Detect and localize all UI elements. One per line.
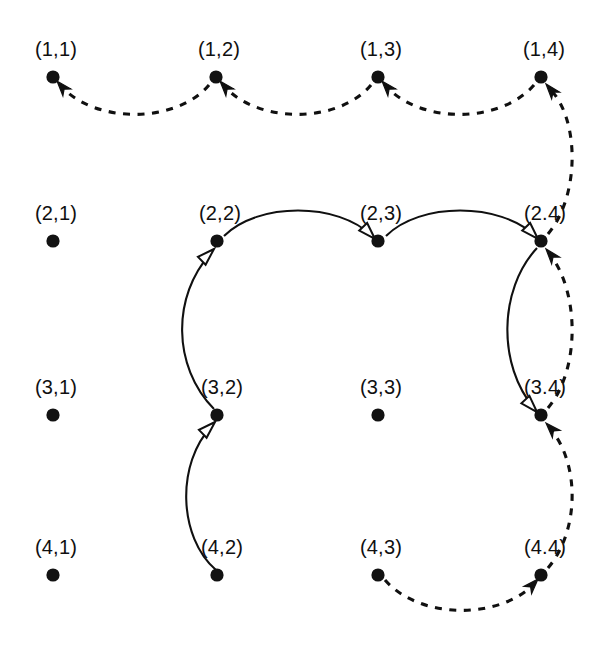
node-n41[interactable] — [46, 568, 59, 581]
node-label-n42: (4,2) — [201, 536, 243, 558]
node-n44[interactable] — [534, 568, 547, 581]
node-n43[interactable] — [371, 568, 384, 581]
node-n23[interactable] — [371, 234, 384, 247]
node-label-n14: (1,4) — [523, 38, 565, 60]
node-n13[interactable] — [371, 70, 384, 83]
nodes-layer — [46, 70, 547, 581]
node-label-n33: (3,3) — [360, 376, 402, 398]
grid-path-diagram: (1,1)(1,2)(1,3)(1,4)(2,1)(2,2)(2,3)(2.4)… — [0, 0, 612, 664]
labels-layer: (1,1)(1,2)(1,3)(1,4)(2,1)(2,2)(2,3)(2.4)… — [35, 38, 566, 558]
node-n33[interactable] — [371, 408, 384, 421]
node-label-n44: (4.4) — [524, 536, 566, 558]
node-n21[interactable] — [46, 234, 59, 247]
node-label-n41: (4,1) — [35, 536, 77, 558]
edge-13-to-12 — [224, 85, 371, 114]
node-n22[interactable] — [210, 234, 223, 247]
arrowhead-e-44-34 — [542, 419, 560, 437]
node-label-n31: (3,1) — [35, 376, 77, 398]
edge-12-to-11 — [61, 85, 209, 114]
edges-layer — [61, 85, 572, 610]
node-n11[interactable] — [46, 70, 59, 83]
node-label-n11: (1,1) — [35, 38, 77, 60]
node-label-n23: (2,3) — [360, 202, 402, 224]
node-label-n34: (3.4) — [524, 376, 566, 398]
node-n24[interactable] — [534, 234, 547, 247]
node-label-n43: (4,3) — [360, 536, 402, 558]
node-label-n22: (2,2) — [199, 202, 241, 224]
node-label-n32: (3,2) — [201, 376, 243, 398]
edge-43-to-44 — [385, 580, 535, 610]
node-label-n13: (1,3) — [360, 38, 402, 60]
node-label-n12: (1,2) — [198, 38, 240, 60]
node-label-n21: (2,1) — [35, 202, 77, 224]
node-n31[interactable] — [46, 408, 59, 421]
edge-14-to-13 — [386, 85, 534, 114]
edge-23-to-24 — [386, 211, 535, 237]
arrowheads-layer — [53, 78, 560, 594]
node-n32[interactable] — [210, 408, 223, 421]
node-n12[interactable] — [209, 70, 222, 83]
node-n34[interactable] — [534, 408, 547, 421]
diagram-canvas: (1,1)(1,2)(1,3)(1,4)(2,1)(2,2)(2,3)(2.4)… — [0, 0, 612, 664]
node-label-n24: (2.4) — [524, 202, 566, 224]
node-n42[interactable] — [210, 568, 223, 581]
arrowhead-e-34-24 — [542, 246, 560, 264]
node-n14[interactable] — [534, 70, 547, 83]
edge-22-to-23 — [224, 211, 372, 237]
arrowhead-e-32-22 — [198, 245, 218, 265]
